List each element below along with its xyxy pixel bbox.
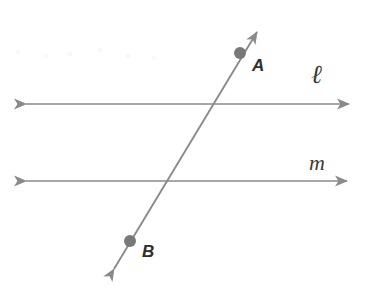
line-m-label: m	[309, 152, 325, 174]
point-a-label: A	[252, 57, 264, 74]
geometry-canvas	[0, 0, 376, 288]
point-b-dot	[124, 235, 136, 247]
transversal-segment	[114, 32, 257, 269]
geometry-diagram: A B ℓ m	[0, 0, 376, 288]
point-b-label: B	[142, 243, 154, 260]
line-ell-label: ℓ	[311, 62, 322, 88]
point-a-dot	[234, 47, 246, 59]
